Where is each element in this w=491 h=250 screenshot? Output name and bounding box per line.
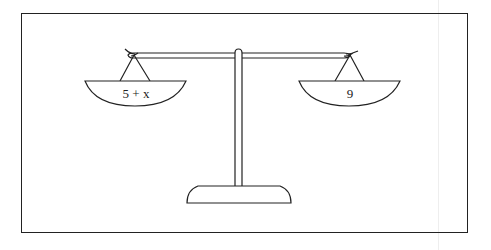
left-strings [120, 55, 150, 81]
left-pan-label: 5 + x [123, 86, 150, 101]
balance-scale: 5 + x 9 [0, 0, 491, 250]
pillar [235, 49, 242, 186]
right-pan-label: 9 [347, 86, 354, 101]
right-strings [335, 55, 364, 81]
base [187, 186, 291, 203]
